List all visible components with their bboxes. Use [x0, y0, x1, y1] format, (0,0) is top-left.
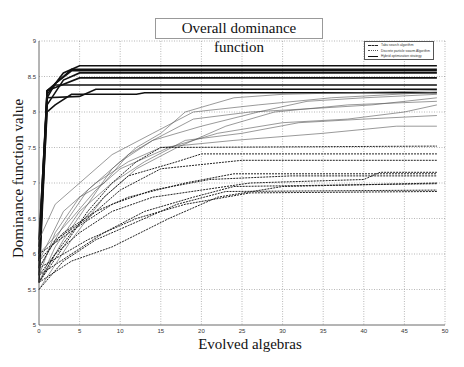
svg-text:8.5: 8.5 [28, 74, 37, 80]
svg-text:0: 0 [37, 328, 41, 334]
svg-text:50: 50 [442, 328, 449, 334]
svg-text:9: 9 [33, 38, 37, 44]
svg-text:7: 7 [33, 180, 37, 186]
thin-line-icon [368, 50, 378, 51]
svg-text:7.5: 7.5 [28, 145, 37, 151]
solid-line-icon [368, 56, 378, 57]
legend-item-dpso: Discrete particle swarm Algorithm [365, 48, 433, 53]
svg-text:40: 40 [360, 328, 367, 334]
svg-text:6.5: 6.5 [28, 216, 37, 222]
svg-text:35: 35 [320, 328, 327, 334]
svg-text:10: 10 [117, 328, 124, 334]
svg-text:30: 30 [279, 328, 286, 334]
svg-text:25: 25 [239, 328, 246, 334]
svg-text:5: 5 [78, 328, 82, 334]
svg-text:20: 20 [198, 328, 205, 334]
dashed-line-icon [368, 45, 378, 46]
legend: Tabu search algorithm Discrete particle … [364, 41, 434, 60]
svg-text:6: 6 [33, 251, 37, 257]
series-lines [39, 66, 437, 290]
grid-lines [39, 41, 445, 325]
y-axis-label: Dominance function value [10, 89, 27, 269]
legend-item-tabu: Tabu search algorithm [365, 43, 433, 48]
svg-text:8: 8 [33, 109, 37, 115]
chart-title: Overall dominance function [155, 18, 323, 39]
svg-text:15: 15 [157, 328, 164, 334]
x-axis-label: Evolved algebras [150, 336, 350, 353]
svg-text:45: 45 [401, 328, 408, 334]
legend-item-hybrid: Hybrid optimization strategy [365, 54, 433, 59]
svg-text:5.5: 5.5 [28, 287, 37, 293]
svg-text:5: 5 [33, 322, 37, 328]
